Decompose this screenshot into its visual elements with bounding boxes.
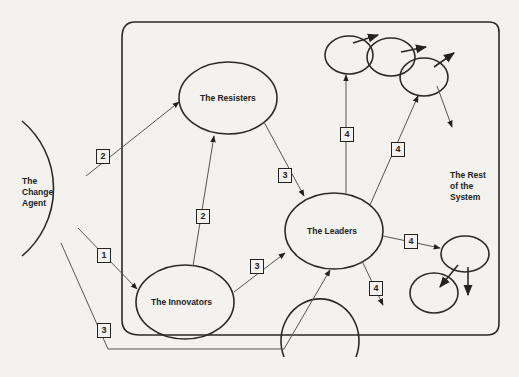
step-badge-4: 4 [369,281,383,296]
change-agent-label: The Change Agent [22,176,53,209]
rest-line-1: The Rest [450,170,486,181]
system-ellipse-bottom [281,299,359,357]
step-badge-3: 3 [278,168,292,183]
system-ellipse-top-2 [367,38,415,76]
edge-resisters-leaders [264,122,304,196]
system-boundary [122,22,499,335]
change-agent-line-2: Change [22,187,53,198]
diagram-canvas [0,0,519,377]
edge-innovators-resisters [193,136,214,266]
step-badge-3: 3 [97,323,111,338]
change-agent-line-1: The [22,176,53,187]
step-badge-2: 2 [196,209,210,224]
rest-of-system-label: The Rest of the System [450,170,486,203]
step-badge-4: 4 [391,142,405,157]
step-badge-4: 4 [404,234,418,249]
step-badge-3: 3 [250,259,264,274]
diffusion-diagram: The Change Agent The Resisters The Innov… [0,0,519,377]
innovators-label: The Innovators [151,297,212,308]
leaders-label: The Leaders [307,226,357,237]
system-ellipse-right-2 [410,273,458,313]
rest-line-3: System [450,192,486,203]
edge-agent-resisters [86,102,179,176]
step-badge-4: 4 [340,127,354,142]
resisters-label: The Resisters [200,93,256,104]
system-ellipse-right-1 [441,236,489,272]
rest-line-2: of the [450,181,486,192]
system-ellipse-top-1 [325,36,373,74]
change-agent-line-3: Agent [22,198,53,209]
step-badge-2: 2 [96,149,110,164]
step-badge-1: 1 [97,248,111,263]
system-ellipse-top-3 [400,58,448,96]
